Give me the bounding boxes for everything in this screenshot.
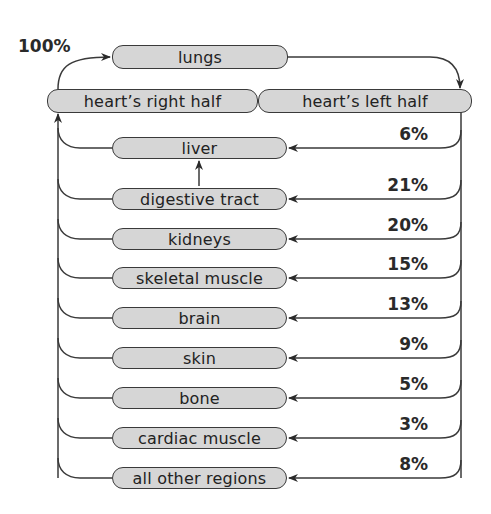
organ-box-digestive-tract: digestive tract	[112, 188, 287, 210]
organ-box-skeletal-muscle: skeletal muscle	[112, 267, 287, 289]
organ-label: skin	[183, 349, 216, 368]
organ-label: bone	[179, 389, 220, 408]
organ-box-bone: bone	[112, 387, 287, 409]
heart-right-box: heart’s right half	[47, 89, 258, 113]
organ-percent: 15%	[368, 254, 428, 274]
organ-box-skin: skin	[112, 347, 287, 369]
heart-left-label: heart’s left half	[302, 92, 428, 111]
organ-percent: 13%	[368, 294, 428, 314]
organ-percent: 9%	[368, 334, 428, 354]
organ-box-liver: liver	[112, 137, 287, 159]
heart-right-label: heart’s right half	[84, 92, 221, 111]
organ-box-all-other-regions: all other regions	[112, 467, 287, 489]
organ-box-cardiac-muscle: cardiac muscle	[112, 427, 287, 449]
organ-percent: 20%	[368, 215, 428, 235]
organ-label: all other regions	[133, 469, 267, 488]
organ-percent: 3%	[368, 414, 428, 434]
organ-box-brain: brain	[112, 307, 287, 329]
organ-label: skeletal muscle	[136, 269, 263, 288]
organ-percent: 8%	[368, 454, 428, 474]
organ-percent: 6%	[368, 124, 428, 144]
heart-left-box: heart’s left half	[258, 89, 472, 113]
organ-label: kidneys	[168, 230, 231, 249]
lungs-label: lungs	[178, 48, 222, 67]
organ-box-kidneys: kidneys	[112, 228, 287, 250]
organ-label: liver	[182, 139, 218, 158]
lungs-box: lungs	[112, 45, 288, 69]
organ-percent: 5%	[368, 374, 428, 394]
organ-percent: 21%	[368, 175, 428, 195]
total-flow-percent: 100%	[18, 36, 71, 56]
organ-label: cardiac muscle	[138, 429, 261, 448]
organ-label: digestive tract	[140, 190, 259, 209]
organ-label: brain	[178, 309, 220, 328]
